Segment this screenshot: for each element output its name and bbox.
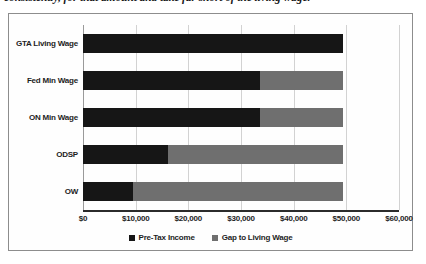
- x-tick-label: $40,000: [280, 214, 308, 223]
- bar-row[interactable]: [83, 108, 399, 127]
- x-tick-label: $30,000: [227, 214, 255, 223]
- bar-segment-gap-to-living-wage[interactable]: [260, 71, 342, 90]
- x-tick-label: $60,000: [385, 214, 413, 223]
- chart-legend: Pre-Tax IncomeGap to Living Wage: [9, 233, 412, 242]
- legend-item[interactable]: Gap to Living Wage: [212, 233, 293, 242]
- bar-segment-gap-to-living-wage[interactable]: [168, 145, 342, 164]
- x-tick-label: $20,000: [175, 214, 203, 223]
- square-swatch-gap: [212, 235, 218, 241]
- legend-item-label: Gap to Living Wage: [222, 233, 293, 242]
- bar-segment-pre-tax-income[interactable]: [83, 34, 343, 53]
- category-label: ODSP: [11, 145, 81, 164]
- legend-item[interactable]: Pre-Tax Income: [129, 233, 195, 242]
- square-swatch-income: [129, 235, 135, 241]
- bar-row[interactable]: [83, 71, 399, 90]
- plot-area: [83, 25, 399, 210]
- bar-segment-pre-tax-income[interactable]: [83, 182, 133, 201]
- x-tick-label: $10,000: [122, 214, 150, 223]
- clipped-heading-text: consistently, for that amount and take f…: [4, 0, 424, 3]
- x-tick-label: $0: [79, 214, 88, 223]
- bar-row[interactable]: [83, 145, 399, 164]
- category-label: ON Min Wage: [11, 108, 81, 127]
- bar-row[interactable]: [83, 34, 399, 53]
- x-axis-line: [83, 210, 399, 212]
- category-label: GTA Living Wage: [11, 34, 81, 53]
- chart-frame: GTA Living WageFed Min WageON Min WageOD…: [8, 13, 413, 251]
- category-label: Fed Min Wage: [11, 71, 81, 90]
- legend-item-label: Pre-Tax Income: [139, 233, 195, 242]
- x-axis-tick-labels: $0$10,000$20,000$30,000$40,000$50,000$60…: [83, 214, 399, 228]
- category-axis-labels: GTA Living WageFed Min WageON Min WageOD…: [11, 25, 81, 210]
- bar-rows: [83, 25, 399, 210]
- gridline-60000: [399, 25, 400, 210]
- bar-segment-gap-to-living-wage[interactable]: [133, 182, 343, 201]
- clipped-heading-strip: consistently, for that amount and take f…: [0, 0, 426, 11]
- bar-row[interactable]: [83, 182, 399, 201]
- x-tick-label: $50,000: [333, 214, 361, 223]
- bar-segment-pre-tax-income[interactable]: [83, 145, 168, 164]
- category-label: OW: [11, 182, 81, 201]
- bar-segment-pre-tax-income[interactable]: [83, 71, 260, 90]
- page-bottom-margin: [0, 252, 426, 264]
- bar-segment-gap-to-living-wage[interactable]: [260, 108, 342, 127]
- bar-segment-pre-tax-income[interactable]: [83, 108, 260, 127]
